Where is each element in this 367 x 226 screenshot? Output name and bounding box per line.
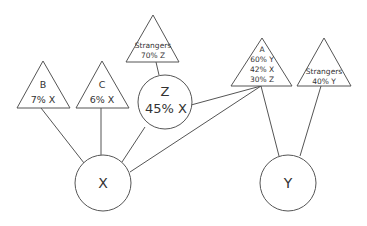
edge-strangersy-y <box>300 86 321 156</box>
node-a-value-y: 60% Y <box>240 56 284 64</box>
node-strangers-y-label: Strangers <box>299 68 349 76</box>
node-b-label: B <box>33 80 53 90</box>
node-a-label: A <box>252 46 272 54</box>
node-strangers-y-value: 40% Y <box>299 78 349 86</box>
diagram-canvas: B 7% X C 6% X Strangers 70% Z Z 45% X A … <box>0 0 367 226</box>
edge-strangersz-z <box>156 62 159 75</box>
node-strangers-z-label: Strangers <box>128 42 178 50</box>
node-c-value: 6% X <box>77 95 127 105</box>
node-z-label: Z <box>145 85 185 98</box>
node-c-label: C <box>92 80 112 90</box>
node-z-value: 45% X <box>138 102 194 115</box>
node-y-label: Y <box>273 176 303 190</box>
edge-b-x <box>41 108 84 163</box>
edge-z-x <box>122 127 145 162</box>
node-x-label: X <box>88 176 118 190</box>
edge-a-y <box>261 86 279 156</box>
node-a-value-x: 42% X <box>240 66 284 74</box>
node-a-value-z: 30% Z <box>240 76 284 84</box>
node-strangers-z-value: 70% Z <box>128 52 178 60</box>
node-b-value: 7% X <box>18 95 68 105</box>
edge-a-z <box>191 86 261 105</box>
